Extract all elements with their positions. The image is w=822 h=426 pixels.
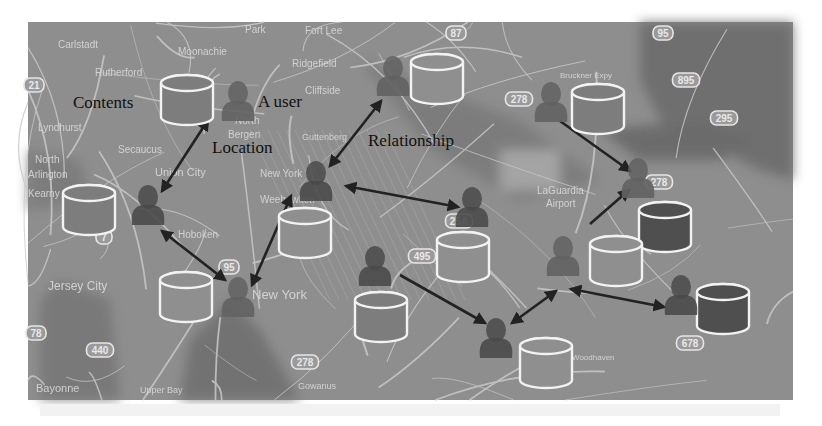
content-cylinder-icon: [355, 292, 407, 342]
place-label: Bayonne: [36, 382, 79, 394]
map-diagram: CarlstadtMoonachieParkFort LeeRidgefield…: [0, 0, 822, 426]
annotation-a-user: A user: [258, 92, 302, 111]
place-label: New York: [260, 168, 303, 179]
content-cylinder-icon: [161, 75, 213, 125]
place-label: Ridgefield: [292, 58, 336, 69]
route-number: 278: [511, 94, 528, 105]
content-cylinder-icon: [160, 272, 212, 322]
route-number: 895: [678, 75, 695, 86]
place-label: Union City: [155, 166, 206, 178]
route-shield-icon: 295: [711, 111, 738, 125]
route-number: 95: [657, 28, 669, 39]
annotation-relationship: Relationship: [368, 131, 454, 150]
content-cylinder-icon: [411, 54, 463, 104]
route-shield-icon: 21: [24, 78, 44, 92]
place-label: Bruckner Expy: [560, 71, 612, 80]
place-label: Gowanus: [298, 381, 337, 391]
place-label: Moonachie: [178, 46, 227, 57]
route-number: 440: [92, 345, 109, 356]
route-shield-icon: 95: [653, 26, 673, 40]
content-cylinder-icon: [590, 236, 642, 286]
place-label: North: [35, 154, 59, 165]
place-label: LaGuardia: [537, 185, 584, 196]
annotation-contents: Contents: [73, 93, 133, 112]
content-cylinder-icon: [279, 208, 331, 258]
content-cylinder-icon: [520, 338, 572, 388]
place-label: Secaucus: [118, 144, 162, 155]
route-number: 21: [28, 80, 40, 91]
route-number: 495: [414, 251, 431, 262]
route-number: 278: [297, 357, 314, 368]
route-shield-icon: 440: [87, 343, 114, 357]
content-cylinder-icon: [697, 284, 749, 334]
place-label: Jersey City: [48, 279, 107, 293]
place-label: Park: [245, 24, 267, 35]
route-number: 78: [30, 328, 42, 339]
route-number: 678: [682, 338, 699, 349]
place-label: Airport: [546, 198, 576, 209]
annotation-location: Location: [212, 138, 273, 157]
place-label: Hoboken: [178, 229, 218, 240]
place-label: Upper Bay: [140, 385, 183, 395]
place-label: Fort Lee: [305, 25, 343, 36]
route-shield-icon: 678: [677, 336, 704, 350]
place-label: Cliffside: [305, 85, 341, 96]
route-number: 95: [223, 262, 235, 273]
place-label: Kearny: [28, 188, 60, 199]
place-label: Lyndhurst: [38, 122, 82, 133]
route-shield-icon: 95: [219, 260, 239, 274]
content-cylinder-icon: [639, 202, 691, 252]
place-label: Woodhaven: [572, 353, 615, 362]
route-shield-icon: 87: [446, 26, 466, 40]
route-shield-icon: 895: [673, 73, 700, 87]
route-number: 87: [450, 28, 462, 39]
route-shield-icon: 495: [409, 249, 436, 263]
content-cylinder-icon: [437, 232, 489, 282]
place-label: Guttenberg: [302, 132, 347, 142]
place-label: Rutherford: [95, 67, 142, 78]
route-shield-icon: 278: [506, 92, 533, 106]
content-cylinder-icon: [572, 84, 624, 134]
place-label: New York: [252, 287, 307, 302]
place-label: Arlington: [28, 169, 67, 180]
route-shield-icon: 278: [292, 355, 319, 369]
place-label: Carlstadt: [58, 39, 98, 50]
content-cylinder-icon: [63, 185, 115, 235]
route-number: 295: [716, 113, 733, 124]
route-shield-icon: 78: [26, 326, 46, 340]
caption-fragment: [40, 404, 780, 416]
